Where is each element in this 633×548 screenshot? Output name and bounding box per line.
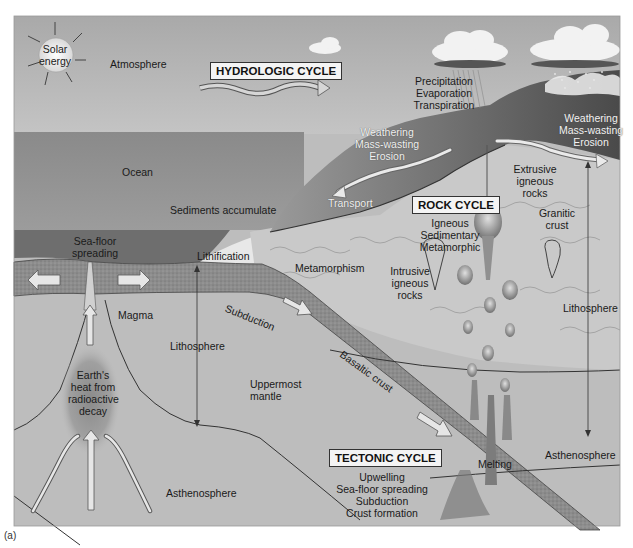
sea-floor-spreading-label: Sea-floor spreading [70,235,120,259]
melting-label: Melting [478,458,512,470]
label-line: rocks [510,187,560,199]
weathering-left-label: Weathering Mass-wasting Erosion [352,126,422,162]
erosion-line: Erosion [556,136,626,148]
process-sea-floor-spreading: Sea-floor spreading [332,483,432,495]
erosion-line: Erosion [352,150,422,162]
tectonic-cycle-title: TECTONIC CYCLE [329,449,442,467]
label-line: igneous [510,175,560,187]
intrusive-igneous-label: Intrusive igneous rocks [385,265,435,301]
label-line: Uppermost [250,378,301,390]
process-crust-formation: Crust formation [332,507,432,519]
metamorphism-label: Metamorphism [295,262,364,274]
hydrologic-cycle-title: HYDROLOGIC CYCLE [210,62,342,80]
weathering-line: Weathering [556,112,626,124]
magma-label: Magma [118,309,153,321]
hydrologic-processes: Precipitation Evaporation Transpiration [398,75,490,111]
label-line: decay [68,405,118,417]
label-line: mantle [250,390,301,402]
rock-type-sedimentary: Sedimentary [410,229,490,241]
label-line: igneous [385,277,435,289]
label-line: Granitic [532,207,582,219]
label-line: spreading [70,247,120,259]
earth-heat-label: Earth's heat from radioactive decay [68,369,118,417]
solar-label-line: energy [39,55,71,67]
weathering-line: Weathering [352,126,422,138]
solar-label-line: Solar [39,43,71,55]
asthenosphere-right-label: Asthenosphere [545,449,616,461]
tectonic-processes: Upwelling Sea-floor spreading Subduction… [332,471,432,519]
process-upwelling: Upwelling [332,471,432,483]
process-subduction: Subduction [332,495,432,507]
label-line: Sea-floor [70,235,120,247]
label-line: radioactive [68,393,118,405]
diagram-artwork [0,0,633,548]
mass-wasting-line: Mass-wasting [556,124,626,136]
figure-caption: (a) [4,530,16,541]
process-transpiration: Transpiration [398,99,490,111]
label-line: Extrusive [510,163,560,175]
granitic-crust-label: Granitic crust [532,207,582,231]
lithification-label: Lithification [197,250,250,262]
weathering-right-label: Weathering Mass-wasting Erosion [556,112,626,148]
uppermost-mantle-label: Uppermost mantle [250,378,301,402]
solar-energy-label: Solar energy [39,43,71,67]
label-line: crust [532,219,582,231]
sediments-accumulate-label: Sediments accumulate [170,204,276,216]
label-line: heat from [68,381,118,393]
lithosphere-left-label: Lithosphere [170,340,225,352]
ocean-label: Ocean [122,166,153,178]
process-precipitation: Precipitation [398,75,490,87]
process-evaporation: Evaporation [398,87,490,99]
label-line: Intrusive [385,265,435,277]
label-line: Earth's [68,369,118,381]
rock-cycle-title: ROCK CYCLE [412,196,500,214]
atmosphere-label: Atmosphere [110,58,167,70]
extrusive-igneous-label: Extrusive igneous rocks [510,163,560,199]
rock-type-igneous: Igneous [410,217,490,229]
label-line: rocks [385,289,435,301]
rock-types: Igneous Sedimentary Metamorphic [410,217,490,253]
mass-wasting-line: Mass-wasting [352,138,422,150]
lithosphere-right-label: Lithosphere [563,302,618,314]
rock-type-metamorphic: Metamorphic [410,241,490,253]
asthenosphere-left-label: Asthenosphere [166,487,237,499]
earth-cycles-diagram: Solar energy Atmosphere HYDROLOGIC CYCLE… [0,0,633,548]
transport-label: Transport [328,197,373,209]
